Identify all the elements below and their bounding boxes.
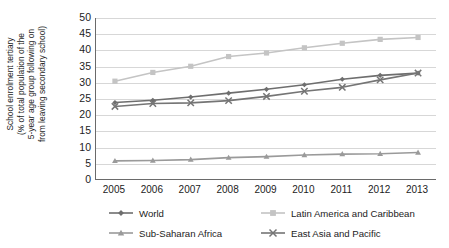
x-tick-label-2009: 2009 [254, 184, 276, 195]
x-tick-label-2006: 2006 [141, 184, 163, 195]
legend-marker-diamond-icon [108, 207, 134, 219]
y-axis-title-line-3: 5-year age group following on [26, 29, 37, 139]
x-tick-label-2007: 2007 [179, 184, 201, 195]
y-axis-title-line-4: from leaving secondary school) [37, 26, 48, 142]
legend-item-east-asia-and-pacific[interactable]: East Asia and Pacific [260, 227, 438, 239]
series-sub-saharan-africa [112, 149, 421, 163]
legend-label-sub-saharan-africa: Sub-Saharan Africa [139, 228, 222, 239]
series-world [112, 70, 420, 105]
chart-figure: School enrolment tertiary (% of total po… [0, 0, 449, 248]
legend-marker-square-icon [260, 207, 286, 219]
x-tick-label-2013: 2013 [406, 184, 428, 195]
x-tick-label-2012: 2012 [368, 184, 390, 195]
legend-label-world: World [139, 208, 164, 219]
gridline-0 [96, 180, 436, 181]
x-tick-label-2011: 2011 [331, 184, 353, 195]
plot-area [95, 18, 436, 180]
x-tick-label-2008: 2008 [216, 184, 238, 195]
legend-marker-triangle-icon [108, 227, 134, 239]
legend-marker-cross-icon [260, 227, 286, 239]
legend-label-east-asia-and-pacific: East Asia and Pacific [291, 228, 381, 239]
y-axis-title: School enrolment tertiary (% of total po… [0, 0, 54, 172]
legend-label-latin-america-and-caribbean: Latin America and Caribbean [291, 208, 415, 219]
x-tick-label-2005: 2005 [103, 184, 125, 195]
x-tick-label-2010: 2010 [292, 184, 314, 195]
chart-legend: WorldLatin America and CaribbeanSub-Saha… [108, 203, 438, 243]
y-axis-title-line-2: (% of total population of the [16, 33, 27, 135]
series-layer [96, 18, 437, 180]
y-axis-title-line-1: School enrolment tertiary [5, 37, 16, 130]
legend-item-latin-america-and-caribbean[interactable]: Latin America and Caribbean [260, 207, 438, 219]
legend-item-sub-saharan-africa[interactable]: Sub-Saharan Africa [108, 227, 260, 239]
legend-item-world[interactable]: World [108, 207, 260, 219]
